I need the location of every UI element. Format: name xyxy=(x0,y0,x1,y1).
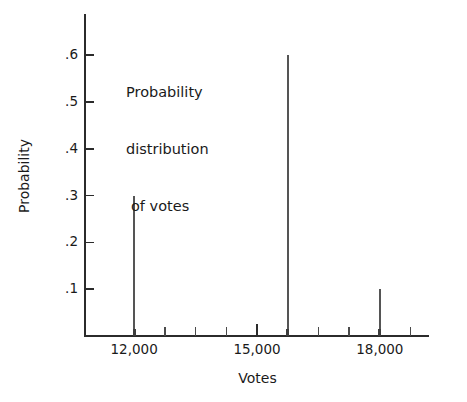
x-tick-minor xyxy=(318,327,320,336)
x-tick-major xyxy=(256,324,258,336)
x-tick-minor xyxy=(164,327,166,336)
y-tick xyxy=(85,195,94,197)
y-tick xyxy=(85,242,94,244)
y-axis-title: Probability xyxy=(16,116,32,236)
chart-annotation: Probability distribution of votes xyxy=(126,45,209,254)
spike-bar xyxy=(287,55,289,336)
x-tick-label: 18,000 xyxy=(345,341,415,357)
x-axis-title: Votes xyxy=(85,370,430,386)
x-tick-minor xyxy=(410,327,412,336)
annotation-line-3: of votes xyxy=(126,197,209,216)
x-tick-minor xyxy=(348,327,350,336)
y-tick xyxy=(85,54,94,56)
x-tick-label: 15,000 xyxy=(222,341,292,357)
x-tick-minor xyxy=(226,327,228,336)
spike-base xyxy=(133,329,136,336)
y-tick-label: .6 xyxy=(52,48,78,62)
y-tick-label: .3 xyxy=(52,189,78,203)
y-tick-label: .2 xyxy=(52,235,78,249)
x-tick-label: 12,000 xyxy=(99,341,169,357)
y-tick xyxy=(85,101,94,103)
y-tick-label: .1 xyxy=(52,282,78,296)
spike-base xyxy=(286,329,289,336)
x-tick-minor xyxy=(195,327,197,336)
spike-base xyxy=(378,329,381,336)
y-tick xyxy=(85,148,94,150)
y-tick-label: .5 xyxy=(52,95,78,109)
probability-distribution-chart: .1.2.3.4.5.6 12,00015,00018,000 Probabil… xyxy=(0,0,467,402)
y-tick xyxy=(85,288,94,290)
annotation-line-2: distribution xyxy=(126,140,209,159)
annotation-line-1: Probability xyxy=(126,83,209,102)
y-tick-label: .4 xyxy=(52,142,78,156)
